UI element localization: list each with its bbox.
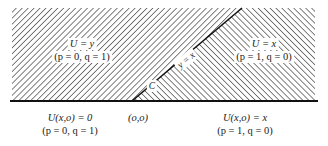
boundary-left-pq-label: (p = 0, q = 1) xyxy=(42,125,98,137)
origin-label: (o,o) xyxy=(128,112,148,124)
boundary-right-eq-label: U(x,o) = x xyxy=(223,112,267,124)
right-region-eq-label: U = x xyxy=(250,38,279,50)
boundary-left-eq-label: U(x,o) = 0 xyxy=(48,112,93,124)
left-region-eq-label: U = y xyxy=(68,38,97,50)
boundary-right-pq-label: (p = 1, q = 0) xyxy=(217,125,273,137)
right-region-pq-label: (p = 1, q = 0) xyxy=(234,51,294,63)
curve-name-label: C xyxy=(147,80,157,92)
left-region-pq-label: (p = 0, q = 1) xyxy=(52,51,112,63)
